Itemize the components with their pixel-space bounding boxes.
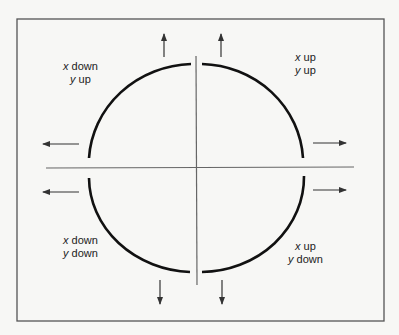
label-dir: down: [294, 253, 323, 265]
label-bottom-right: x up y down: [288, 240, 323, 266]
label-bottom-left: x down y down: [63, 234, 98, 260]
arc-bottom-left: [89, 178, 190, 272]
arc-top-right: [202, 64, 303, 158]
label-dir: down: [69, 60, 98, 72]
quadrant-diagram: [0, 0, 399, 335]
vertical-axis: [196, 56, 197, 285]
label-dir: down: [69, 247, 98, 259]
label-dir: up: [301, 51, 316, 63]
label-dir: up: [301, 240, 316, 252]
label-dir: down: [69, 234, 98, 246]
arc-top-left: [89, 64, 191, 158]
label-top-right: x up y up: [295, 51, 316, 77]
label-top-left: x down y up: [63, 60, 98, 86]
label-dir: up: [301, 64, 316, 76]
label-dir: up: [76, 73, 91, 85]
horizontal-axis: [46, 167, 354, 168]
